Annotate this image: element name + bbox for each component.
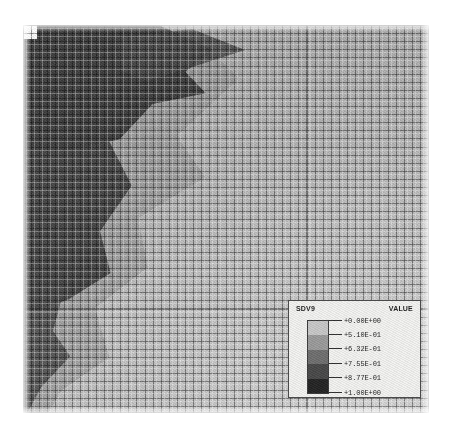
legend-tick-marks bbox=[329, 320, 343, 394]
legend-label-1: +5.10E-01 bbox=[344, 331, 381, 339]
legend-value-labels: +0.00E+00 +5.10E-01 +6.32E-01 +7.55E-01 … bbox=[344, 315, 418, 399]
legend-swatch-5 bbox=[308, 379, 328, 393]
legend-label-2: +6.32E-01 bbox=[344, 345, 381, 353]
figure-canvas: SDV9 VALUE +0.00E+00 +5.10E-01 +6.32E-01… bbox=[0, 0, 456, 437]
contour-legend[interactable]: SDV9 VALUE +0.00E+00 +5.10E-01 +6.32E-01… bbox=[288, 300, 421, 398]
legend-tick-3 bbox=[329, 363, 342, 364]
legend-label-4: +8.77E-01 bbox=[344, 374, 381, 382]
legend-swatch-3 bbox=[308, 350, 328, 364]
legend-tick-2 bbox=[329, 348, 342, 349]
legend-swatch-1 bbox=[308, 321, 328, 335]
legend-swatch-4 bbox=[308, 364, 328, 378]
legend-value-header: VALUE bbox=[389, 305, 413, 312]
legend-label-3: +7.55E-01 bbox=[344, 360, 381, 368]
legend-label-5: +1.00E+00 bbox=[344, 389, 381, 397]
legend-tick-5 bbox=[329, 392, 342, 393]
legend-tick-4 bbox=[329, 377, 342, 378]
legend-label-0: +0.00E+00 bbox=[344, 317, 381, 325]
legend-tick-1 bbox=[329, 334, 342, 335]
legend-color-bar bbox=[307, 320, 329, 394]
legend-swatch-2 bbox=[308, 335, 328, 349]
legend-variable-label: SDV9 bbox=[296, 305, 315, 312]
legend-tick-0 bbox=[329, 320, 342, 321]
